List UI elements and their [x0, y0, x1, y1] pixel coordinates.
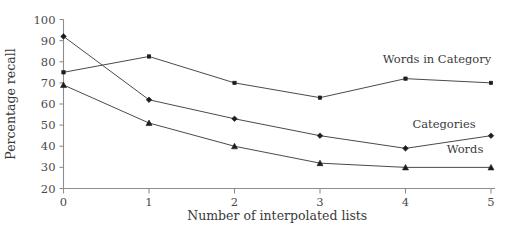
data-point-square [62, 71, 65, 74]
y-axis-tick-label: 60 [41, 97, 56, 111]
data-point-square [404, 77, 407, 80]
data-point-square [318, 96, 321, 99]
y-axis-tick-label: 80 [41, 55, 56, 69]
series-label-words-in-category: Words in Category [383, 52, 492, 66]
x-axis-tick-label: 0 [60, 195, 67, 209]
series-label-categories: Categories [412, 117, 475, 131]
data-point-diamond [403, 146, 409, 152]
data-point-square [489, 81, 492, 84]
data-point-square [147, 55, 150, 58]
y-axis-tick-label: 50 [41, 118, 56, 132]
x-axis-tick-label: 3 [316, 195, 323, 209]
data-point-diamond [317, 133, 323, 139]
y-axis-tick-label: 30 [41, 160, 56, 174]
x-axis-tick-label: 2 [231, 195, 238, 209]
series-label-words: Words [447, 142, 484, 156]
y-axis-tick-label: 100 [34, 13, 56, 27]
data-point-diamond [488, 133, 494, 139]
y-axis-tick-label: 70 [41, 76, 56, 90]
y-axis-tick-label: 20 [41, 182, 56, 196]
y-axis-title: Percentage recall [3, 48, 18, 159]
data-point-triangle [146, 120, 152, 126]
line-chart: 2030405060708090100012345Number of inter… [0, 0, 506, 226]
chart-container: 2030405060708090100012345Number of inter… [0, 0, 506, 226]
x-axis-tick-label: 1 [145, 195, 152, 209]
x-axis-title: Number of interpolated lists [187, 208, 367, 223]
data-point-square [233, 81, 236, 84]
y-axis-tick-label: 40 [41, 139, 56, 153]
x-axis-tick-label: 5 [487, 195, 494, 209]
y-axis-tick-label: 90 [41, 34, 56, 48]
x-axis-tick-label: 4 [402, 195, 409, 209]
data-point-diamond [232, 116, 238, 122]
